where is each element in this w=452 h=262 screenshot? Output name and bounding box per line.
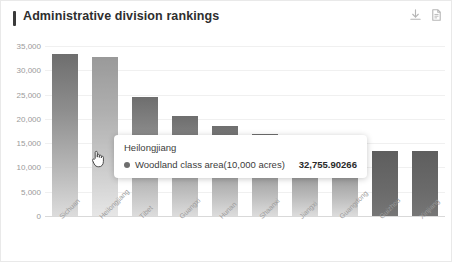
y-axis-tick-label: 0: [37, 212, 41, 221]
tooltip-series-label: Woodland class area(10,000 acres): [135, 159, 285, 170]
x-axis-tick-label: Xinjiang: [418, 197, 441, 220]
download-icon[interactable]: [409, 8, 422, 22]
x-axis-tick-label: Shaanxi: [258, 197, 281, 220]
y-axis-tick-label: 35,000: [17, 42, 41, 51]
y-axis-tick-label: 30,000: [17, 66, 41, 75]
x-axis-tick-label: Heilongjiang: [98, 188, 130, 220]
chart-tooltip: Heilongjiang Woodland class area(10,000 …: [114, 135, 367, 178]
document-icon[interactable]: [430, 8, 443, 22]
title-accent-bar: [13, 11, 16, 26]
x-axis-tick-label: Jiangxi: [298, 200, 318, 220]
y-axis-labels: 05,00010,00015,00020,00025,00030,00035,0…: [1, 33, 45, 262]
tooltip-title: Heilongjiang: [124, 142, 357, 153]
y-axis-tick-label: 15,000: [17, 139, 41, 148]
tooltip-value: 32,755.90266: [299, 159, 357, 170]
x-axis-tick-label: Guizhou: [378, 197, 401, 220]
y-axis-tick-label: 25,000: [17, 90, 41, 99]
x-axis-tick-label: Sichuan: [58, 197, 81, 220]
mouse-pointer-icon: [90, 149, 106, 169]
x-axis-tick-label: Tibet: [138, 204, 154, 220]
x-axis-tick-label: Guangdong: [338, 189, 369, 220]
page-title: Administrative division rankings: [23, 9, 219, 23]
header-actions: [409, 8, 443, 22]
chart-card: Administrative division rankings 05,0001…: [0, 0, 452, 262]
y-axis-tick-label: 5,000: [21, 187, 41, 196]
x-axis-tick-label: Hunan: [218, 200, 238, 220]
y-axis-tick-label: 20,000: [17, 114, 41, 123]
tooltip-row: Woodland class area(10,000 acres) 32,755…: [124, 159, 357, 170]
tooltip-series-marker-icon: [124, 162, 130, 168]
x-axis-tick-label: Guangxi: [178, 197, 201, 220]
card-header: Administrative division rankings: [1, 1, 452, 33]
y-axis-tick-label: 10,000: [17, 163, 41, 172]
